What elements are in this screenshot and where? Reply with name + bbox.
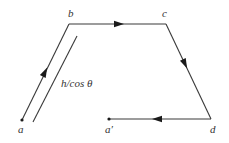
point-a-dot: [20, 118, 23, 121]
point-a-prime-dot: [107, 117, 110, 120]
label-b: b: [68, 7, 74, 19]
label-c: c: [162, 7, 167, 19]
label-d: d: [210, 123, 216, 135]
cycle-diagram: a b c d a′ h/cos θ: [0, 0, 229, 143]
arrow-icon-a-b: [40, 66, 50, 78]
segment-c-d: [166, 24, 211, 119]
arrow-icon-d-a-prime: [152, 116, 162, 122]
dimension-label: h/cos θ: [61, 77, 93, 89]
arrow-icon-c-d: [180, 58, 190, 70]
arrow-icon-b-c: [114, 21, 124, 27]
label-a: a: [18, 123, 24, 135]
label-a-prime: a′: [105, 123, 114, 135]
